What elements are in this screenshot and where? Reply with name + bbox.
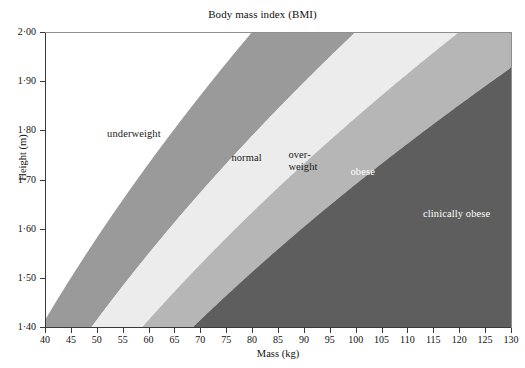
plot-frame-right <box>511 32 512 328</box>
x-tick-40 <box>45 328 46 333</box>
y-tick-label-1·90: 1·90 <box>0 75 36 86</box>
plot-area <box>45 32 512 328</box>
x-tick-70 <box>200 328 201 333</box>
y-tick-label-1·60: 1·60 <box>0 223 36 234</box>
y-tick-1·70 <box>40 180 45 181</box>
y-axis-title: Height (m) <box>17 98 28 218</box>
y-tick-1·90 <box>40 81 45 82</box>
y-tick-label-1·50: 1·50 <box>0 272 36 283</box>
region-label-normal: normal <box>231 152 261 164</box>
x-tick-110 <box>407 328 408 333</box>
x-tick-125 <box>485 328 486 333</box>
x-tick-130 <box>511 328 512 333</box>
bmi-chart-figure: Body mass index (BMI) underweightnormalo… <box>0 0 525 368</box>
region-label-overweight: over- weight <box>288 149 317 172</box>
x-tick-45 <box>71 328 72 333</box>
x-tick-90 <box>304 328 305 333</box>
x-tick-55 <box>123 328 124 333</box>
y-tick-1·80 <box>40 130 45 131</box>
y-axis-line <box>45 32 46 328</box>
x-tick-95 <box>330 328 331 333</box>
x-axis-title: Mass (kg) <box>45 348 511 359</box>
y-tick-label-2·00: 2·00 <box>0 26 36 37</box>
x-tick-50 <box>97 328 98 333</box>
y-tick-1·60 <box>40 229 45 230</box>
chart-title: Body mass index (BMI) <box>0 8 525 20</box>
region-label-obese: obese <box>351 166 375 178</box>
x-tick-80 <box>252 328 253 333</box>
y-tick-2·00 <box>40 32 45 33</box>
x-tick-120 <box>459 328 460 333</box>
x-tick-85 <box>278 328 279 333</box>
y-tick-1·50 <box>40 278 45 279</box>
bmi-region-bands <box>45 32 511 327</box>
x-tick-115 <box>433 328 434 333</box>
x-tick-100 <box>356 328 357 333</box>
x-tick-65 <box>174 328 175 333</box>
plot-frame-top <box>45 32 512 33</box>
x-tick-75 <box>226 328 227 333</box>
x-tick-60 <box>149 328 150 333</box>
x-tick-label-130: 130 <box>496 334 525 345</box>
y-tick-1·40 <box>40 327 45 328</box>
x-tick-105 <box>382 328 383 333</box>
region-label-clinically-obese: clinically obese <box>423 208 490 220</box>
y-tick-label-1·40: 1·40 <box>0 321 36 332</box>
region-label-underweight: underweight <box>107 128 161 140</box>
